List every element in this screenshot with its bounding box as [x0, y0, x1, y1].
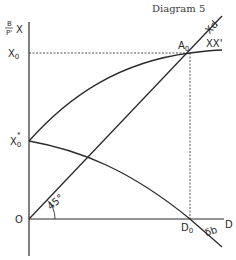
x0-label: X0: [8, 48, 19, 61]
x-label: D: [225, 219, 233, 230]
diagram-title: Diagram 5: [152, 3, 205, 14]
y-label-denominator: P': [6, 29, 12, 37]
db-label: δb: [203, 224, 218, 239]
origin-label: O: [15, 214, 23, 225]
xd-line: [29, 16, 222, 219]
a0-label: A0: [178, 40, 189, 53]
y-label-numerator: B: [7, 20, 12, 28]
y-label-suffix: X: [16, 24, 23, 35]
x0-star-superscript: *: [17, 131, 21, 139]
xx-label: XX': [206, 38, 222, 49]
xx-curve: [29, 50, 222, 141]
diagram: Diagram 5 B P' X D O X0 X0 * Xd XX' δb A…: [0, 0, 236, 260]
d0-label: D0: [181, 222, 193, 235]
angle-label: 45°: [45, 192, 66, 212]
